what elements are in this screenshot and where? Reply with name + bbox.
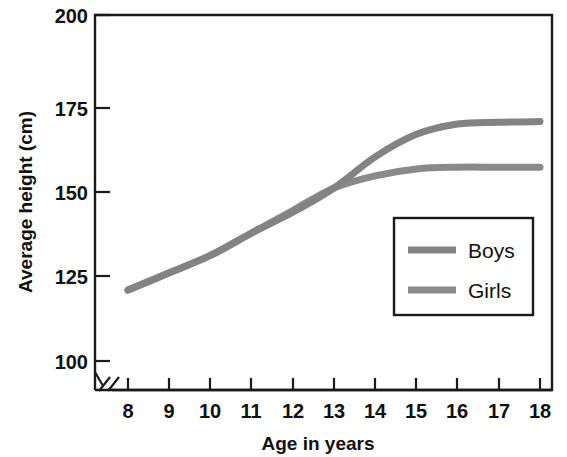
y-tick-label-200: 200: [55, 5, 88, 27]
x-axis-title: Age in years: [262, 433, 375, 454]
legend-label-girls: Girls: [468, 279, 511, 302]
legend-box: [394, 218, 533, 315]
x-axis-tick-labels: 8 9 10 11 12 13 14 15 16 17 18: [122, 400, 551, 422]
x-tick-label-9: 9: [163, 400, 174, 422]
height-vs-age-line-chart: 200 175 150 125 100: [0, 0, 567, 457]
x-tick-label-12: 12: [282, 400, 304, 422]
x-tick-label-18: 18: [529, 400, 551, 422]
x-tick-label-17: 17: [488, 400, 510, 422]
y-tick-label-100: 100: [55, 351, 88, 373]
y-tick-label-150: 150: [55, 182, 88, 204]
y-tick-label-175: 175: [55, 98, 88, 120]
x-tick-label-8: 8: [122, 400, 133, 422]
x-tick-label-14: 14: [364, 400, 387, 422]
x-tick-label-13: 13: [323, 400, 345, 422]
chart-container: 200 175 150 125 100: [0, 0, 567, 457]
x-tick-label-10: 10: [199, 400, 221, 422]
x-tick-label-15: 15: [405, 400, 427, 422]
x-tick-label-16: 16: [446, 400, 468, 422]
axis-break-icon: [95, 372, 119, 391]
y-axis-title: Average height (cm): [15, 111, 36, 293]
x-axis-ticks: [128, 378, 540, 390]
y-axis-tick-labels: 200 175 150 125 100: [55, 5, 88, 373]
legend-label-boys: Boys: [468, 239, 515, 262]
y-axis-ticks: [95, 15, 110, 361]
legend: Boys Girls: [394, 218, 533, 315]
plot-frame: [95, 15, 552, 390]
x-tick-label-11: 11: [240, 400, 261, 422]
y-tick-label-125: 125: [55, 266, 88, 288]
